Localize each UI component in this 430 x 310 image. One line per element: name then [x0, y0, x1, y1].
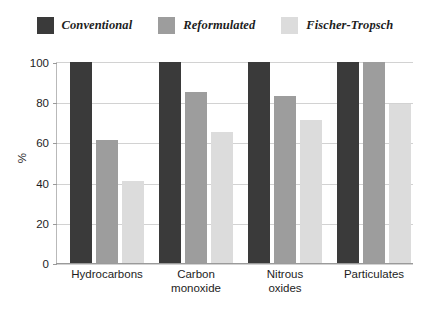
bar[interactable] — [248, 62, 270, 263]
bar[interactable] — [185, 92, 207, 263]
bar[interactable] — [300, 120, 322, 263]
bar[interactable] — [389, 104, 411, 263]
bar[interactable] — [122, 181, 144, 263]
bar-group — [159, 62, 233, 263]
chart-page: ConventionalReformulatedFischer-Tropsch … — [0, 0, 430, 310]
gridline — [57, 264, 413, 265]
legend-swatch-icon — [158, 17, 175, 34]
bar[interactable] — [337, 62, 359, 263]
x-axis-category-label-line: Nitrous — [235, 267, 335, 281]
legend-label: Conventional — [62, 18, 133, 33]
y-axis-tick-label: 40 — [36, 178, 49, 190]
x-axis-category-label-line: monoxide — [146, 281, 246, 295]
y-axis-tick-label: 100 — [30, 57, 49, 69]
x-axis-category-label: Carbonmonoxide — [146, 267, 246, 295]
x-axis-category-label-line: Particulates — [324, 267, 424, 281]
x-axis-category-label-line: Hydrocarbons — [57, 267, 157, 281]
bar-group — [248, 62, 322, 263]
x-axis-category-label: Particulates — [324, 267, 424, 281]
legend-swatch-icon — [281, 17, 298, 34]
legend-entry[interactable]: Reformulated — [158, 17, 255, 34]
y-axis-tick-label: 20 — [36, 218, 49, 230]
bar[interactable] — [211, 132, 233, 263]
chart-legend: ConventionalReformulatedFischer-Tropsch — [0, 14, 430, 36]
x-axis-category-label-line: oxides — [235, 281, 335, 295]
bars-layer — [56, 62, 412, 263]
y-axis-tick-label: 80 — [36, 97, 49, 109]
y-axis-tick — [53, 264, 57, 265]
bar[interactable] — [70, 62, 92, 263]
bar[interactable] — [96, 140, 118, 263]
x-axis-category-label-line: Carbon — [146, 267, 246, 281]
bar[interactable] — [363, 62, 385, 263]
x-axis-category-label: Nitrousoxides — [235, 267, 335, 295]
legend-label: Reformulated — [183, 18, 255, 33]
y-axis-tick-label: 0 — [43, 258, 49, 270]
legend-entry[interactable]: Fischer-Tropsch — [281, 17, 393, 34]
legend-swatch-icon — [37, 17, 54, 34]
legend-entry[interactable]: Conventional — [37, 17, 133, 34]
bar-group — [70, 62, 144, 263]
bar[interactable] — [274, 96, 296, 263]
y-axis-title: % — [16, 148, 28, 168]
x-axis-labels: HydrocarbonsCarbonmonoxideNitrousoxidesP… — [56, 267, 412, 309]
x-axis-line — [56, 263, 413, 264]
bar[interactable] — [159, 62, 181, 263]
x-axis-category-label: Hydrocarbons — [57, 267, 157, 281]
legend-label: Fischer-Tropsch — [306, 18, 393, 33]
bar-group — [337, 62, 411, 263]
y-axis-tick-label: 60 — [36, 137, 49, 149]
